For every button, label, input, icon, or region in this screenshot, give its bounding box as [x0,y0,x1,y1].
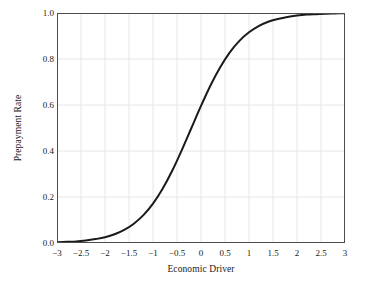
plot-svg [57,13,345,243]
y-tick-label: 1.0 [8,8,54,18]
x-tick-label: 3 [325,248,365,258]
y-tick-label: 0.6 [8,100,54,110]
chart-figure: Prepayment Rate 0.00.20.40.60.81.0 −3−2.… [0,0,372,288]
y-tick-label: 0.8 [8,54,54,64]
y-tick-label: 0.0 [8,238,54,248]
y-axis-tick-labels: 0.00.20.40.60.81.0 [3,0,54,288]
y-tick-label: 0.4 [8,146,54,156]
gridlines [57,13,345,243]
x-axis-tick-labels: −3−2.5−2−1.5−1−0.500.511.522.53 [0,248,372,262]
x-axis-title: Economic Driver [57,264,345,274]
plot-area [57,13,345,243]
y-tick-label: 0.2 [8,192,54,202]
